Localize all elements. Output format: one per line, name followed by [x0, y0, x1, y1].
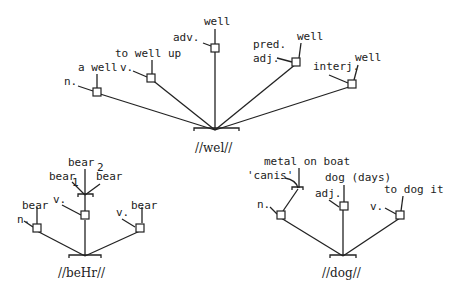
pos-label: v.	[53, 193, 66, 206]
pos-label-2: adj.	[253, 52, 280, 65]
edge-v	[151, 79, 215, 130]
root-label: //dog//	[322, 266, 362, 280]
pos-label: n.	[64, 75, 77, 88]
pos-pointer	[133, 71, 147, 77]
pos-label: adv.	[173, 31, 200, 44]
pos-pointer	[329, 75, 348, 83]
root-label: //wel//	[195, 141, 233, 155]
node-box	[348, 80, 356, 88]
pos-pointer	[78, 86, 93, 91]
sub-gloss-2: bear	[68, 156, 95, 169]
tree-beHr: n. bear v. bear 1 bear 2 bear v. bear //…	[17, 156, 158, 280]
pos-pointer	[329, 200, 339, 207]
pos-label: n.	[257, 198, 270, 211]
node-box	[396, 211, 404, 219]
node-box	[136, 224, 144, 232]
node-box	[33, 224, 41, 232]
pos-pointer	[270, 207, 277, 214]
gloss-label: to well up	[115, 47, 181, 60]
node-box	[211, 44, 219, 52]
gloss-label: to dog it	[384, 183, 444, 196]
edge-n	[281, 218, 343, 256]
gloss-label: well	[204, 15, 231, 28]
edge-n	[37, 231, 85, 256]
tree-wel: n. a well v. to well up adv. well pred. …	[64, 15, 382, 155]
pos-label: interj.	[313, 60, 359, 73]
node-box	[340, 202, 348, 210]
gloss-label: dog (days)	[325, 171, 391, 184]
pos-label: n.	[17, 213, 30, 226]
homonym-tree-diagram: n. a well v. to well up adv. well pred. …	[0, 0, 452, 291]
gloss-label: well	[297, 30, 324, 43]
gloss-label: bear	[22, 199, 49, 212]
node-box	[277, 211, 285, 219]
pos-label: pred.	[253, 38, 286, 51]
pos-pointer	[62, 205, 81, 215]
edge-interj	[215, 86, 352, 130]
gloss-stem	[401, 196, 403, 211]
pos-label: v.	[116, 206, 129, 219]
pos-pointer	[203, 43, 211, 46]
node-box	[93, 88, 101, 96]
edge-v	[343, 218, 400, 256]
tree-dog: n. 'canis' metal on boat adj. dog (days)…	[247, 155, 444, 280]
gloss-stem	[283, 189, 298, 211]
subscript-1: 1	[72, 176, 79, 189]
edge-n	[97, 93, 215, 130]
pos-pointer	[385, 208, 396, 214]
gloss-label: well	[355, 51, 382, 64]
gloss-stem	[299, 43, 301, 58]
pos-label: adj.	[315, 187, 342, 200]
sub-gloss-canis: 'canis'	[247, 169, 293, 182]
node-box	[292, 58, 300, 66]
node-box	[81, 211, 89, 219]
gloss-label: bear	[131, 199, 158, 212]
pos-label: v.	[370, 200, 383, 213]
sub-gloss-3: bear	[96, 170, 123, 183]
root-label: //beHr//	[58, 266, 106, 280]
sub-gloss-metal: metal on boat	[264, 155, 350, 168]
node-box	[147, 74, 155, 82]
edge-v-right	[85, 231, 140, 256]
pos-pointer	[122, 219, 135, 227]
edge-pred-adj	[215, 64, 296, 130]
gloss-label: a well	[78, 61, 118, 74]
pos-label: v.	[120, 61, 133, 74]
